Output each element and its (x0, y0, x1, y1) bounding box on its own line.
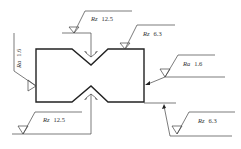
left-surface-label: Ra1.6 (15, 48, 22, 69)
top-surface-label: Rz6.3 (142, 30, 162, 37)
bottom-surface-label: Rz6.3 (197, 117, 217, 124)
symbol-bottom-groove (12, 94, 96, 134)
surface-roughness-drawing: Rz12.5 Rz6.3 Ra1.6 Ra1.6 (0, 0, 241, 149)
top-groove-label: Rz12.5 (90, 15, 113, 22)
symbol-top-surface (120, 25, 175, 49)
right-surface-label: Ra1.6 (182, 60, 203, 67)
bottom-groove-label: Rz12.5 (42, 116, 65, 123)
symbol-bottom-surface (144, 103, 235, 136)
part-outline (36, 49, 144, 102)
